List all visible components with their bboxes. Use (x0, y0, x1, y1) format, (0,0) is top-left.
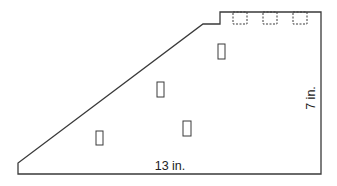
small-rect-2 (183, 121, 191, 136)
shape-outline (18, 12, 321, 174)
right-dimension-label: 7 in. (304, 86, 318, 110)
dashed-rect-2 (263, 12, 277, 24)
dashed-rect-3 (293, 12, 307, 24)
solid-rectangles (96, 44, 225, 145)
bottom-dimension-label: 13 in. (155, 159, 186, 173)
dashed-rect-1 (233, 12, 247, 24)
small-rect-4 (218, 44, 225, 59)
diagram-canvas: 13 in. 7 in. (0, 0, 337, 186)
small-rect-3 (157, 82, 164, 97)
small-rect-1 (96, 131, 103, 145)
dashed-rectangles (233, 12, 307, 24)
